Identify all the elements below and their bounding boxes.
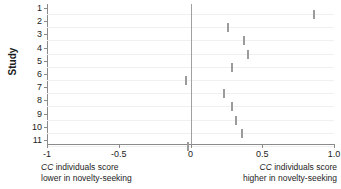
caption-left-line1: CC individuals score <box>41 162 191 173</box>
caption-right: CC individuals score higher in novelty-s… <box>185 162 337 184</box>
data-marker <box>313 10 315 19</box>
y-axis-tick-label: 9 <box>23 110 42 119</box>
x-axis-tick-label: -1 <box>27 149 67 159</box>
data-marker <box>241 129 243 138</box>
x-axis-tick-label: 0 <box>171 149 211 159</box>
y-axis-tick <box>44 140 47 141</box>
y-axis-tick <box>44 8 47 9</box>
y-axis-tick <box>44 100 47 101</box>
x-axis-tick <box>119 144 120 148</box>
x-axis-tick-label: -0.5 <box>99 149 139 159</box>
y-axis-tick-label: 2 <box>23 17 42 26</box>
x-axis-tick <box>262 144 263 148</box>
caption-right-line1-rest: individuals score <box>272 162 337 172</box>
y-axis-tick-label: 1 <box>23 4 42 13</box>
caption-right-line1: CC individuals score <box>185 162 337 173</box>
data-marker <box>223 89 225 98</box>
caption-right-line2: higher in novelty-seeking <box>185 173 337 184</box>
forest-plot: Study 1234567891011 -1-0.500.51.0 CC ind… <box>0 0 341 189</box>
x-axis-tick-label: 0.5 <box>242 149 282 159</box>
x-axis-tick <box>191 144 192 148</box>
caption-left-line2: lower in novelty-seeking <box>41 173 191 184</box>
y-axis-tick-label: 8 <box>23 96 42 105</box>
y-axis-tick-label: 4 <box>23 44 42 53</box>
y-axis-tick <box>44 87 47 88</box>
gene-label-right: CC <box>260 162 272 172</box>
caption-left-line1-rest: individuals score <box>53 162 118 172</box>
data-marker <box>247 50 249 59</box>
y-axis-title: Study <box>7 32 18 92</box>
plot-area: 1234567891011 <box>47 4 334 144</box>
y-axis-tick <box>44 21 47 22</box>
zero-reference-line <box>191 4 192 144</box>
y-axis-tick-label: 11 <box>23 136 42 145</box>
y-axis-tick <box>44 74 47 75</box>
y-axis-tick-label: 7 <box>23 83 42 92</box>
y-axis-tick-label: 5 <box>23 57 42 66</box>
y-axis-tick-label: 10 <box>23 123 42 132</box>
y-axis-tick <box>44 127 47 128</box>
gene-label-left: CC <box>41 162 53 172</box>
y-axis-tick-label: 6 <box>23 70 42 79</box>
data-marker <box>243 36 245 45</box>
caption-left: CC individuals score lower in novelty-se… <box>41 162 191 184</box>
y-axis-tick <box>44 61 47 62</box>
y-axis-tick <box>44 48 47 49</box>
data-marker <box>231 102 233 111</box>
y-axis-tick <box>44 34 47 35</box>
data-marker <box>231 63 233 72</box>
data-marker <box>185 76 187 85</box>
data-marker <box>235 116 237 125</box>
x-axis-tick-label: 1.0 <box>314 149 341 159</box>
y-axis-tick-label: 3 <box>23 30 42 39</box>
x-axis-tick <box>47 144 48 148</box>
x-axis-tick <box>334 144 335 148</box>
y-axis-tick <box>44 114 47 115</box>
data-marker <box>227 23 229 32</box>
